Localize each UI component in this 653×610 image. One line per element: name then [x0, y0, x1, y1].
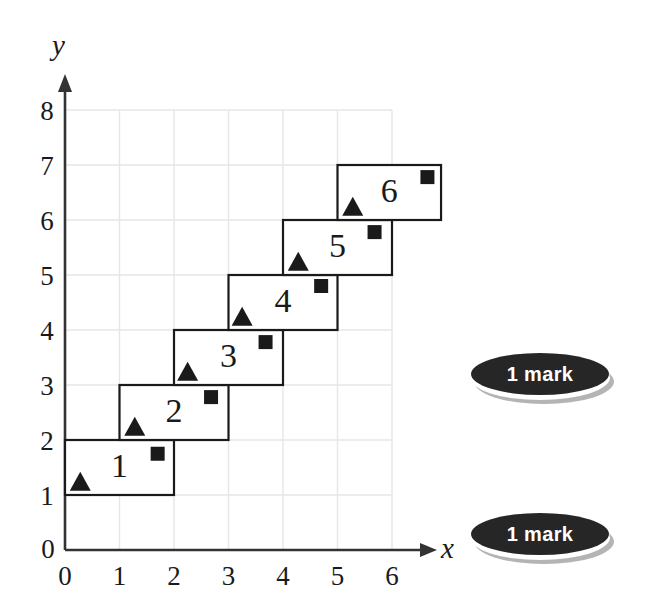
figure-stage: 0123456012345678 123456 xy 1 mark 1 mark: [0, 0, 653, 610]
mark-badge-2: 1 mark: [470, 513, 610, 560]
y-tick-label: 3: [40, 371, 54, 401]
y-tick-label: 6: [40, 206, 54, 236]
x-tick-label: 3: [222, 561, 236, 591]
y-tick-label: 2: [40, 426, 54, 456]
y-tick-label: 5: [40, 261, 54, 291]
square-marker: [314, 279, 328, 293]
square-marker: [420, 170, 434, 184]
x-tick-label: 6: [385, 561, 399, 591]
mark-badge-1: 1 mark: [470, 353, 610, 400]
badge-label: 1 mark: [471, 513, 609, 555]
step-rectangle-label: 3: [220, 337, 237, 374]
step-rectangle-label: 4: [275, 282, 292, 319]
square-marker: [204, 390, 218, 404]
square-marker: [368, 225, 382, 239]
x-tick-label: 4: [276, 561, 290, 591]
y-axis-arrowhead: [58, 74, 72, 92]
x-tick-label: 5: [331, 561, 345, 591]
step-rectangle-label: 1: [111, 447, 128, 484]
x-axis-title: x: [440, 532, 454, 564]
x-tick-label: 0: [58, 561, 72, 591]
badge-disc: 1 mark: [471, 513, 609, 555]
y-tick-label: 4: [40, 316, 54, 346]
badge-label: 1 mark: [471, 353, 609, 395]
square-marker: [151, 447, 165, 461]
y-tick-label: 1: [40, 481, 54, 511]
square-marker: [259, 335, 273, 349]
x-tick-label: 1: [113, 561, 127, 591]
step-rectangle-label: 5: [329, 227, 346, 264]
y-tick-label: 8: [40, 96, 54, 126]
step-rectangle-label: 6: [381, 172, 398, 209]
step-rectangle-label: 2: [166, 392, 183, 429]
y-axis-title: y: [49, 29, 65, 61]
x-tick-label: 2: [167, 561, 181, 591]
x-axis-arrowhead: [420, 543, 437, 557]
badge-disc: 1 mark: [471, 353, 609, 395]
y-tick-label: 0: [41, 534, 55, 564]
y-tick-label: 7: [40, 151, 54, 181]
